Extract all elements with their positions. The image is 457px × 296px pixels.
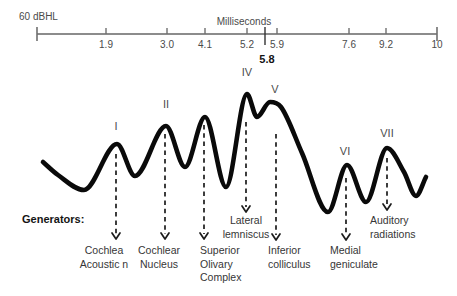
tick-label: 10: [431, 39, 442, 50]
generator-label-line: Nucleus: [138, 258, 180, 272]
wave-IV-label: IV: [242, 66, 252, 78]
wave-V-label: V: [271, 83, 278, 95]
tick-label: 3.0: [160, 39, 174, 50]
axis-title: Milliseconds: [217, 16, 271, 27]
abr-waveform-diagram: 60 dBHL Milliseconds 5.8 Generators: 1.9…: [0, 0, 457, 296]
generator-label: Medialgeniculate: [330, 244, 378, 271]
abr-waveform-curve: [43, 94, 426, 212]
wave-II-label: II: [163, 98, 169, 110]
generator-label-line: lemniscus: [223, 228, 270, 242]
wave-I-label: I: [114, 120, 117, 132]
generator-label: CochleaAcoustic n: [80, 244, 128, 271]
generator-label-line: Acoustic n: [80, 258, 128, 272]
generator-label-line: radiations: [370, 228, 416, 242]
generator-label-line: Inferior: [268, 244, 311, 258]
generator-label: CochlearNucleus: [138, 244, 180, 271]
generator-label-line: Cochlea: [80, 244, 128, 258]
wave-VII-label: VII: [380, 127, 393, 139]
tick-label: 5.2: [240, 39, 254, 50]
generator-label-line: Auditory: [370, 214, 416, 228]
tick-label: 4.1: [198, 39, 212, 50]
generator-label-line: Olivary: [200, 258, 241, 272]
marker-latency-value: 5.8: [259, 53, 274, 65]
generator-label-line: Cochlear: [138, 244, 180, 258]
tick-label: 1.9: [99, 39, 113, 50]
generator-label: SuperiorOlivaryComplex: [200, 244, 241, 285]
generator-label: Auditoryradiations: [370, 214, 416, 241]
generator-label: Laterallemniscus: [223, 214, 270, 241]
stimulus-level-label: 60 dBHL: [19, 11, 58, 22]
tick-label: 5.9: [270, 39, 284, 50]
generator-label: Inferiorcolliculus: [268, 244, 311, 271]
generator-label-line: Complex: [200, 271, 241, 285]
generators-heading: Generators:: [22, 213, 84, 225]
generator-arrowhead-icon: [112, 233, 120, 239]
generator-label-line: Medial: [330, 244, 378, 258]
generator-label-line: colliculus: [268, 258, 311, 272]
generator-label-line: Superior: [200, 244, 241, 258]
generator-arrowhead-icon: [383, 204, 391, 210]
generator-arrowhead-icon: [342, 234, 350, 240]
generator-label-line: Lateral: [223, 214, 270, 228]
tick-label: 7.6: [342, 39, 356, 50]
generator-label-line: geniculate: [330, 258, 378, 272]
tick-label: 9.2: [379, 39, 393, 50]
wave-VI-label: VI: [340, 145, 350, 157]
